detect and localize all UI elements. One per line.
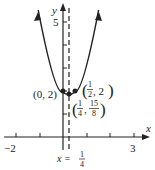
svg-text:2: 2 (88, 90, 92, 99)
x-axis-label: x (145, 122, 151, 134)
curve-right-arrow-icon (95, 12, 102, 21)
point-0-2 (61, 89, 66, 94)
svg-text:15: 15 (90, 99, 98, 108)
point-label-half-2: ( 1 2 , 2 ) (82, 80, 114, 100)
vertex-label: ( 1 4 , 15 8 ) (72, 99, 106, 119)
svg-text:): ) (108, 81, 114, 100)
vertex-point (67, 92, 72, 97)
svg-text:, 2: , 2 (93, 85, 104, 97)
svg-text:1: 1 (88, 80, 92, 89)
svg-text:1: 1 (80, 150, 84, 159)
svg-text:4: 4 (80, 160, 84, 169)
svg-text:1: 1 (78, 99, 82, 108)
x-axis-arrow-icon (142, 134, 150, 140)
point-half-2 (73, 89, 78, 94)
svg-text:,: , (84, 103, 87, 115)
y-axis (60, 3, 67, 150)
tick-label-neg2: −2 (4, 142, 16, 154)
axis-of-symmetry-label: x = 1 4 (56, 150, 85, 169)
svg-text:): ) (100, 100, 106, 119)
y-axis-arrow-icon (60, 3, 66, 11)
point-label-0-2: (0, 2) (33, 88, 57, 101)
svg-text:8: 8 (92, 109, 96, 118)
svg-text:x =: x = (56, 153, 71, 164)
x-axis (4, 133, 150, 140)
tick-label-5: 5 (53, 16, 59, 28)
tick-label-3: 3 (130, 142, 136, 154)
y-axis-label: y (51, 4, 57, 16)
parabola-graph: y x −2 3 5 (0, 2) ( 1 2 , 2 ) ( 1 4 , 15… (0, 0, 155, 170)
svg-text:4: 4 (78, 109, 82, 118)
